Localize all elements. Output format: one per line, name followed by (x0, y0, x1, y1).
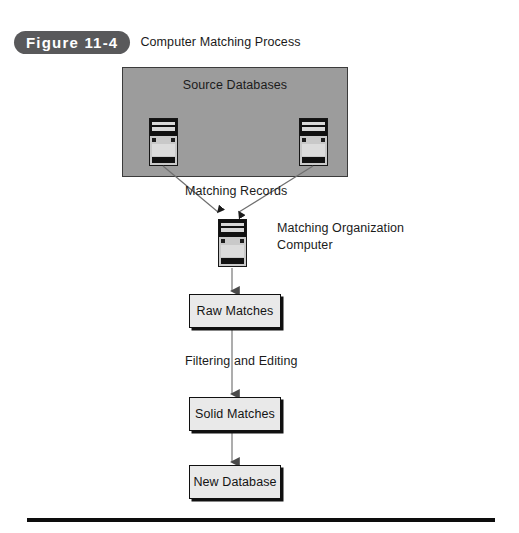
drive-slot (221, 228, 244, 232)
flow-box-new-database: New Database (189, 465, 281, 499)
figure-number-badge: Figure 11-4 (14, 31, 130, 54)
flow-box-solid-matches: Solid Matches (189, 397, 281, 431)
case-panel (152, 144, 175, 156)
case-base (221, 258, 244, 264)
case-base (302, 157, 325, 163)
label-filtering-and-editing: Filtering and Editing (185, 354, 298, 368)
flow-box-raw-matches: Raw Matches (189, 294, 281, 328)
drive-slot (221, 223, 244, 226)
drive-bay-block (150, 119, 177, 136)
source-database-computer-left-icon (149, 118, 178, 166)
power-led (221, 239, 225, 243)
bottom-divider (27, 518, 495, 522)
power-led (152, 138, 156, 142)
figure-diagram: Figure 11-4 Computer Matching Process So… (0, 0, 519, 533)
drive-slot (152, 127, 175, 131)
label-matching-organization-computer: Matching Organization Computer (277, 220, 427, 254)
drive-bay-block (219, 220, 246, 237)
matching-organization-computer-icon (218, 219, 247, 267)
case-panel (302, 144, 325, 156)
drive-bay-block (300, 119, 327, 136)
drive-slot (302, 122, 325, 125)
drive-slot (302, 127, 325, 131)
power-led (302, 138, 306, 142)
source-databases-title: Source Databases (123, 78, 347, 92)
drive-slot (152, 122, 175, 125)
source-database-computer-right-icon (299, 118, 328, 166)
figure-title: Computer Matching Process (140, 35, 300, 49)
case-base (152, 157, 175, 163)
status-led (240, 239, 244, 243)
status-led (171, 138, 175, 142)
label-matching-records: Matching Records (185, 184, 287, 198)
figure-caption: Figure 11-4 Computer Matching Process (14, 30, 301, 54)
status-led (321, 138, 325, 142)
case-panel (221, 245, 244, 257)
